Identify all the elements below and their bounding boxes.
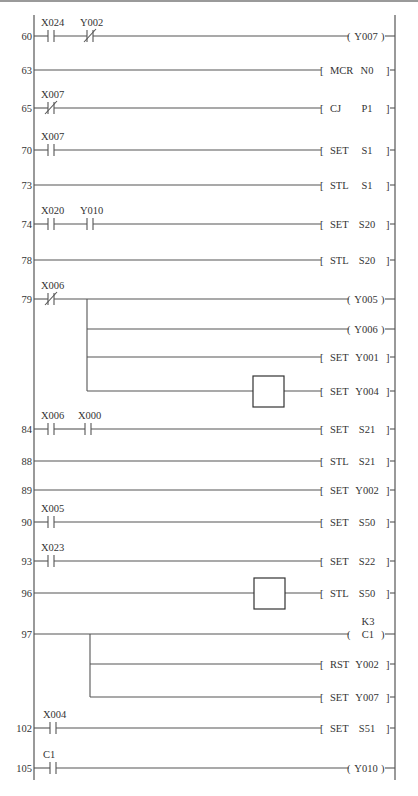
instr-close-bracket: ] [386, 659, 390, 670]
instr-operand: S21 [359, 456, 375, 467]
coil-close-paren: ) [381, 629, 385, 641]
contact-no[interactable]: X023 [41, 542, 64, 567]
contact-no[interactable]: X000 [78, 410, 101, 435]
instr-close-bracket: ] [386, 103, 390, 114]
blank-fill-in-box[interactable] [253, 376, 284, 407]
coil-open-paren: ( [347, 763, 351, 775]
contact-no[interactable]: X020 [41, 205, 64, 230]
rung-102: 102X004[SETS51] [16, 709, 395, 734]
instruction-box[interactable]: [SETS1] [320, 145, 395, 156]
output-coil[interactable]: ()Y007 [347, 31, 395, 43]
instruction-box[interactable]: [MCRN0] [320, 65, 395, 76]
instr-opcode: SET [330, 723, 349, 734]
instr-operand: S51 [359, 723, 375, 734]
instruction-box[interactable]: [SETS51] [320, 723, 395, 734]
coil-close-paren: ) [381, 31, 385, 43]
instruction-box[interactable]: [CJP1] [320, 103, 395, 114]
instr-opcode: SET [330, 424, 349, 435]
instruction-box[interactable]: [SETS50] [320, 517, 395, 528]
instr-opcode: SET [330, 386, 349, 397]
rung-84: 84X006X000[SETS21] [22, 410, 396, 435]
instruction-box[interactable]: [STLS1] [320, 180, 395, 191]
rung-65: 65X007[CJP1] [22, 89, 396, 114]
step-number: 60 [22, 31, 33, 42]
step-number: 84 [22, 424, 33, 435]
contact-label: X004 [43, 709, 67, 720]
contact-nc[interactable]: X007 [41, 89, 64, 114]
contact-label: C1 [43, 749, 55, 760]
instruction-box[interactable]: [STLS20] [320, 255, 395, 266]
rung-60: 60X024Y002()Y007 [22, 17, 396, 43]
rung-90: 90X005[SETS50] [22, 503, 396, 528]
instr-opcode: STL [330, 588, 349, 599]
contact-label: X007 [41, 89, 64, 100]
instr-operand: Y002 [355, 659, 378, 670]
contact-no[interactable]: X006 [41, 410, 64, 435]
instruction-box[interactable]: [STLS21] [320, 456, 395, 467]
coil-open-paren: ( [347, 31, 351, 43]
instruction-box[interactable]: [RSTY002] [320, 659, 395, 670]
instr-close-bracket: ] [386, 352, 390, 363]
blank-fill-in-box[interactable] [254, 578, 285, 609]
step-number: 73 [22, 180, 33, 191]
instr-operand: S20 [359, 255, 375, 266]
contact-label: X007 [41, 131, 64, 142]
instr-close-bracket: ] [386, 145, 390, 156]
ladder-diagram: 60X024Y002()Y00763[MCRN0]65X007[CJP1]70X… [0, 0, 418, 796]
contact-label: X023 [41, 542, 64, 553]
instr-close-bracket: ] [386, 456, 390, 467]
rungs: 60X024Y002()Y00763[MCRN0]65X007[CJP1]70X… [16, 17, 395, 775]
output-coil[interactable]: ()Y010 [347, 763, 395, 775]
instr-close-bracket: ] [386, 65, 390, 76]
instruction-box[interactable]: [SETS21] [320, 424, 395, 435]
instr-operand: Y004 [355, 386, 379, 397]
instr-opcode: SET [330, 556, 349, 567]
instruction-box[interactable]: [SETS20] [320, 219, 395, 230]
instruction-box[interactable]: [SETY001] [320, 352, 395, 363]
contact-no[interactable]: C1 [43, 749, 56, 774]
output-coil[interactable]: ()K3C1 [347, 616, 395, 641]
contact-nc[interactable]: Y002 [80, 17, 103, 42]
instr-operand: Y007 [355, 692, 378, 703]
instr-close-bracket: ] [386, 517, 390, 528]
instr-close-bracket: ] [386, 180, 390, 191]
contact-no[interactable]: Y010 [80, 205, 103, 230]
instr-operand: S22 [359, 556, 375, 567]
contact-label: X020 [41, 205, 64, 216]
instruction-box[interactable]: [STLS50] [320, 588, 395, 599]
instr-opcode: STL [330, 255, 349, 266]
contact-no[interactable]: X005 [41, 503, 64, 528]
rung-88: 88[STLS21] [22, 456, 396, 467]
instr-operand: S1 [361, 180, 372, 191]
contact-label: Y010 [80, 205, 103, 216]
instr-opcode: CJ [330, 103, 341, 114]
coil-close-paren: ) [381, 763, 385, 775]
contact-label: Y002 [80, 17, 103, 28]
step-number: 96 [22, 588, 33, 599]
coil-open-paren: ( [347, 629, 351, 641]
step-number: 78 [22, 255, 33, 266]
instr-close-bracket: ] [386, 424, 390, 435]
contact-no[interactable]: X024 [41, 17, 65, 42]
coil-preset: K3 [362, 616, 375, 627]
instruction-box[interactable]: [SETY007] [320, 692, 395, 703]
output-coil[interactable]: ()Y005 [347, 294, 395, 306]
instr-opcode: MCR [330, 65, 353, 76]
instr-opcode: STL [330, 456, 349, 467]
rung-79: 79X006()Y005()Y006[SETY001][SETY004] [22, 280, 396, 407]
step-number: 90 [22, 517, 33, 528]
instr-operand: P1 [361, 103, 372, 114]
contact-no[interactable]: X007 [41, 131, 64, 156]
instr-operand: Y001 [355, 352, 378, 363]
instruction-box[interactable]: [SETY004] [320, 386, 395, 397]
instr-opcode: SET [330, 352, 349, 363]
rung-73: 73[STLS1] [22, 180, 396, 191]
instr-close-bracket: ] [386, 556, 390, 567]
step-number: 63 [22, 65, 33, 76]
instruction-box[interactable]: [SETS22] [320, 556, 395, 567]
contact-no[interactable]: X004 [43, 709, 67, 734]
instruction-box[interactable]: [SETY002] [320, 485, 395, 496]
contact-nc[interactable]: X006 [41, 280, 64, 305]
step-number: 79 [22, 294, 33, 305]
output-coil[interactable]: ()Y006 [347, 324, 395, 336]
